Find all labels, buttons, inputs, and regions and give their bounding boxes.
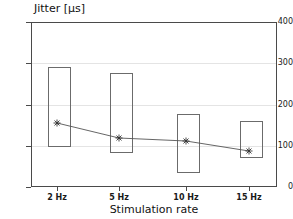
range-box-15hz bbox=[240, 121, 263, 158]
x-axis-tick-label-2hz: 2 Hz bbox=[33, 193, 81, 202]
range-box-5hz bbox=[110, 73, 133, 153]
jitter-vs-stimulation-rate-chart: Jitter [µs] 400 300 200 100 0 bbox=[0, 0, 293, 219]
gridline-300 bbox=[32, 63, 276, 64]
x-axis-title: Stimulation rate bbox=[31, 203, 277, 216]
x-axis-tick-label-15hz: 15 Hz bbox=[225, 193, 273, 202]
plot-area bbox=[31, 22, 277, 187]
range-box-10hz bbox=[177, 114, 200, 173]
x-axis-tick-label-5hz: 5 Hz bbox=[95, 193, 143, 202]
range-box-2hz bbox=[48, 67, 71, 147]
x-axis-tick-mark-15hz bbox=[249, 187, 250, 191]
y-axis-tick-mark-0 bbox=[26, 187, 31, 188]
x-axis-tick-mark-5hz bbox=[119, 187, 120, 191]
x-axis-tick-mark-10hz bbox=[186, 187, 187, 191]
x-axis-tick-mark-2hz bbox=[57, 187, 58, 191]
x-axis-tick-label-10hz: 10 Hz bbox=[162, 193, 210, 202]
y-axis-title: Jitter [µs] bbox=[34, 3, 85, 15]
